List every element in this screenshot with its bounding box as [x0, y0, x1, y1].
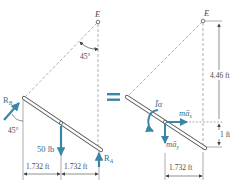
point-e-label-right: E [203, 8, 210, 18]
inertia-y-label: māy [166, 139, 179, 150]
force-ra-label: RA [104, 153, 114, 164]
dimension-vertical-upper: 4.46 ft [208, 24, 238, 119]
dimension-vertical-lower: 1 ft [214, 124, 234, 145]
dim-horizontal-label: 1.732 ft [169, 163, 193, 172]
dim-upper-label: 4.46 ft [210, 71, 230, 80]
angle-arc-bottom [12, 114, 23, 121]
rod-left [24, 98, 101, 150]
angle-top-label: 45° [80, 52, 91, 61]
kinetic-diagram: E 4.46 ft 1 ft Īα [127, 8, 238, 180]
free-body-diagram: E 45° RB 45° 50 lb [3, 9, 114, 180]
point-e-label: E [94, 9, 101, 19]
dim-left-label: 1.732 ft [26, 162, 50, 171]
inertia-x-label: māx [179, 108, 192, 119]
force-weight: 50 lb [37, 126, 61, 155]
dim-right-label: 1.732 ft [64, 162, 88, 171]
angle-bottom-label: 45° [8, 126, 19, 135]
force-rb-label: RB [3, 95, 13, 106]
inertia-force-x: māx [166, 108, 192, 122]
dim-lower-label: 1 ft [220, 130, 231, 139]
pivot-point-e-right: E [201, 8, 210, 23]
force-ra: RA [99, 153, 114, 167]
moment-label: Īα [154, 99, 163, 109]
weight-label: 50 lb [37, 144, 54, 154]
rod-dynamics-diagram: E 45° RB 45° 50 lb [0, 0, 239, 188]
dashed-diagonal-right [128, 22, 202, 96]
force-rb: RB [3, 95, 19, 120]
dimension-horizontal-right: 1.732 ft [165, 152, 203, 180]
equals-sign [107, 93, 120, 101]
angle-arc-top [80, 42, 98, 49]
pivot-point-e-left: E [94, 9, 101, 24]
